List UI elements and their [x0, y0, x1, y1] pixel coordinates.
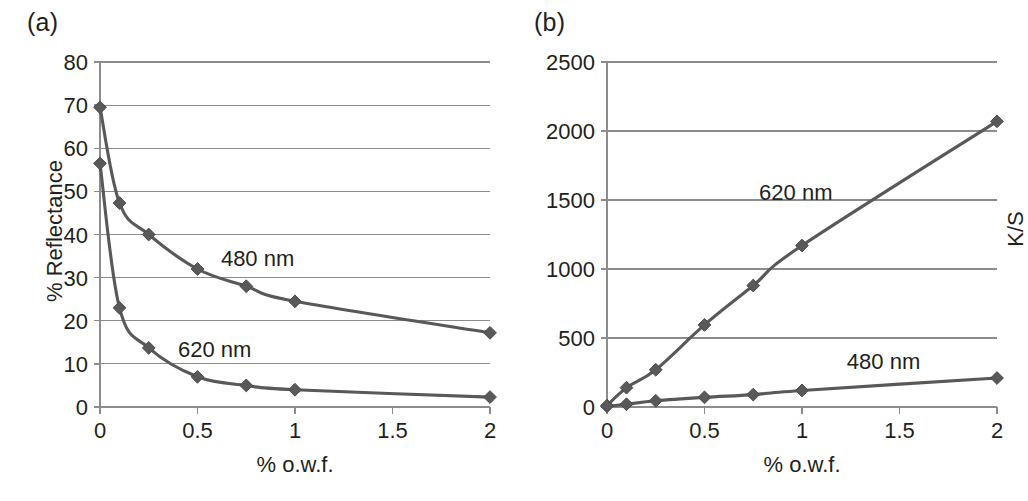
y-tick-label: 60: [64, 136, 88, 161]
x-tick-label: 0.5: [182, 418, 213, 443]
data-point-marker: [649, 394, 662, 407]
data-point-marker: [113, 197, 126, 210]
x-tick-label: 0: [94, 418, 106, 443]
y-tick-label: 1000: [546, 257, 595, 282]
data-point-marker: [191, 263, 204, 276]
data-point-marker: [289, 383, 302, 396]
series-annotation-480-nm: 480 nm: [847, 349, 920, 374]
data-point-marker: [620, 398, 633, 411]
panel-b-plot: 0500100015002000250000.511.52620 nm480 n…: [507, 0, 1014, 501]
data-point-marker: [240, 280, 253, 293]
y-tick-label: 80: [64, 50, 88, 75]
y-tick-label: 1500: [546, 188, 595, 213]
data-point-marker: [484, 391, 497, 404]
x-tick-label: 1.5: [884, 418, 915, 443]
panel-a: (a) % Reflectance % o.w.f. 0102030405060…: [0, 0, 507, 501]
data-point-marker: [94, 101, 107, 114]
y-tick-label: 70: [64, 93, 88, 118]
y-tick-label: 10: [64, 352, 88, 377]
data-point-marker: [289, 295, 302, 308]
y-tick-label: 40: [64, 223, 88, 248]
data-point-marker: [113, 301, 126, 314]
data-point-marker: [747, 388, 760, 401]
data-point-marker: [991, 372, 1004, 385]
data-point-marker: [796, 384, 809, 397]
y-tick-label: 50: [64, 179, 88, 204]
x-tick-label: 1.5: [377, 418, 408, 443]
y-tick-label: 0: [76, 395, 88, 420]
y-tick-label: 500: [558, 326, 595, 351]
series-annotation-480-nm: 480 nm: [221, 246, 294, 271]
panel-a-plot: 0102030405060708000.511.52480 nm620 nm: [0, 0, 507, 501]
y-tick-label: 0: [583, 395, 595, 420]
series-line-620-nm: [100, 163, 490, 397]
data-point-marker: [698, 391, 711, 404]
series-line-620-nm: [607, 121, 997, 405]
x-tick-label: 0.5: [689, 418, 720, 443]
x-tick-label: 2: [991, 418, 1003, 443]
data-point-marker: [191, 370, 204, 383]
panel-b: (b) K/S % o.w.f. 0500100015002000250000.…: [507, 0, 1014, 501]
x-tick-label: 0: [601, 418, 613, 443]
series-annotation-620-nm: 620 nm: [178, 337, 251, 362]
y-tick-label: 20: [64, 309, 88, 334]
y-tick-label: 2000: [546, 119, 595, 144]
x-tick-label: 1: [289, 418, 301, 443]
y-tick-label: 30: [64, 266, 88, 291]
data-point-marker: [484, 326, 497, 339]
y-tick-label: 2500: [546, 50, 595, 75]
x-tick-label: 1: [796, 418, 808, 443]
data-point-marker: [240, 379, 253, 392]
data-point-marker: [94, 157, 107, 170]
series-annotation-620-nm: 620 nm: [759, 180, 832, 205]
x-tick-label: 2: [484, 418, 496, 443]
